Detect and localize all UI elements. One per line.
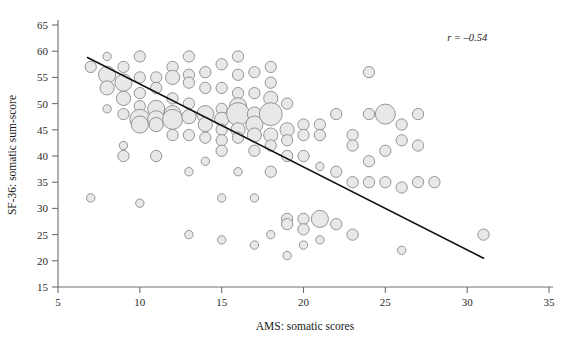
y-tick-label: 20 (37, 255, 49, 267)
data-point (380, 177, 391, 188)
y-tick-label: 65 (37, 19, 49, 31)
data-point (265, 166, 276, 177)
data-point (363, 156, 374, 167)
data-point (118, 150, 129, 161)
data-point (298, 224, 309, 235)
data-point (185, 230, 193, 238)
data-point (267, 230, 275, 238)
y-tick-label: 30 (37, 202, 49, 214)
data-point (250, 194, 258, 202)
data-point (100, 81, 114, 95)
data-point (259, 103, 282, 126)
data-point (136, 199, 144, 207)
data-point (250, 241, 258, 249)
data-point (281, 98, 292, 109)
data-point (163, 109, 183, 129)
data-point (232, 69, 243, 80)
data-point (363, 177, 374, 188)
data-point (314, 129, 325, 140)
data-point (299, 241, 307, 249)
data-point (380, 145, 391, 156)
scatter-plot-canvas: 1520253035404550556065 5101520253035 AMS… (0, 0, 578, 341)
data-point (200, 67, 211, 78)
data-point (412, 177, 423, 188)
data-point (283, 251, 291, 259)
data-point (265, 61, 276, 72)
x-tick-label: 35 (544, 296, 556, 308)
data-point (316, 162, 324, 170)
data-point (281, 135, 292, 146)
data-point (134, 87, 145, 98)
data-point (234, 168, 242, 176)
data-point (116, 91, 130, 105)
data-point (151, 72, 162, 83)
data-point (331, 218, 342, 229)
data-point (183, 51, 194, 62)
data-point (200, 132, 211, 143)
data-point (131, 116, 148, 133)
y-axis-ticks: 1520253035404550556065 (37, 19, 58, 293)
data-point (118, 108, 129, 119)
data-point (201, 157, 209, 165)
data-point (412, 140, 423, 151)
data-point (87, 194, 95, 202)
data-point (347, 177, 358, 188)
y-tick-label: 60 (37, 45, 49, 57)
scatter-plot-figure: 1520253035404550556065 5101520253035 AMS… (0, 0, 578, 341)
data-point (375, 104, 395, 124)
correlation-annotation: r = –0.54 (447, 32, 488, 43)
x-tick-label: 10 (134, 296, 146, 308)
data-point (281, 218, 292, 229)
data-point (347, 140, 358, 151)
data-point (183, 129, 194, 140)
data-point (429, 177, 440, 188)
y-tick-label: 25 (37, 229, 49, 241)
data-point (363, 108, 374, 119)
data-point (396, 182, 407, 193)
data-point (232, 87, 243, 98)
y-axis-label: SF-36: somatic sum-score (6, 95, 18, 215)
data-point (311, 210, 328, 227)
data-point (167, 129, 178, 140)
data-point (249, 67, 260, 78)
data-point (396, 135, 407, 146)
data-point (478, 229, 489, 240)
x-tick-label: 30 (462, 296, 474, 308)
x-tick-label: 15 (216, 296, 228, 308)
data-point (134, 51, 145, 62)
data-point (119, 141, 127, 149)
x-axis-ticks: 5101520253035 (55, 287, 555, 308)
data-point (265, 77, 276, 88)
data-point (103, 52, 111, 60)
data-point (103, 105, 111, 113)
data-point (216, 59, 227, 70)
data-point (314, 119, 325, 130)
data-point (298, 129, 309, 140)
x-tick-label: 25 (380, 296, 392, 308)
y-tick-label: 55 (37, 71, 49, 83)
data-point (331, 108, 342, 119)
data-point (216, 82, 227, 93)
data-point (265, 140, 276, 151)
data-point (249, 87, 260, 98)
data-point (298, 150, 309, 161)
data-point (151, 150, 162, 161)
data-point (316, 236, 324, 244)
data-point (298, 119, 309, 130)
y-tick-label: 35 (37, 176, 49, 188)
data-point-group (85, 51, 489, 260)
y-tick-label: 50 (37, 98, 49, 110)
data-point (165, 70, 179, 84)
data-point (200, 82, 211, 93)
data-point (115, 74, 132, 91)
data-point (183, 77, 194, 88)
data-point (216, 145, 227, 156)
data-point (249, 145, 260, 156)
data-point (347, 129, 358, 140)
data-point (363, 67, 374, 78)
y-tick-label: 15 (37, 281, 49, 293)
data-point (396, 119, 407, 130)
data-point (232, 51, 243, 62)
x-tick-label: 5 (55, 296, 61, 308)
data-point (185, 168, 193, 176)
